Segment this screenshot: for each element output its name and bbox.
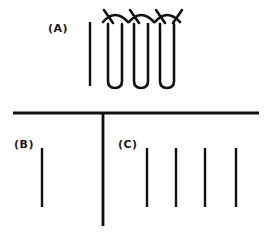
coil-hairpin-3	[160, 24, 174, 88]
section-c-label: (C)	[118, 138, 138, 151]
line-diagram-svg: (A)	[0, 0, 272, 236]
coil-hairpin-2	[134, 24, 148, 88]
section-a-label: (A)	[48, 22, 68, 35]
section-b-label: (B)	[14, 138, 34, 151]
section-b-group: (B)	[14, 138, 42, 207]
figure-root: (A)	[0, 0, 272, 236]
divider-group	[13, 113, 259, 226]
section-a-group: (A)	[48, 10, 182, 88]
coil-hairpin-1	[108, 24, 122, 88]
coil-winding	[103, 10, 182, 88]
section-c-group: (C)	[118, 138, 236, 207]
